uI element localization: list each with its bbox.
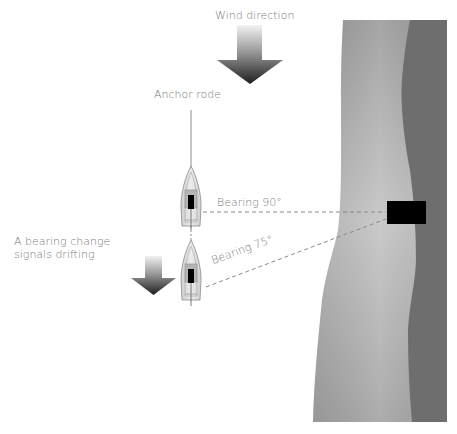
- drift-note-line1: A bearing change: [14, 235, 134, 248]
- diagram-canvas: [0, 0, 457, 434]
- wind-direction-label: Wind direction: [215, 9, 294, 22]
- drift-note-line2: signals drifting: [14, 248, 134, 261]
- shoreline: [313, 20, 447, 422]
- wind-arrow-icon: [217, 25, 283, 84]
- bearing-90-label: Bearing 90°: [217, 196, 282, 209]
- boat-original-icon: [181, 166, 201, 230]
- drift-arrow-icon: [131, 256, 176, 295]
- landmark-rectangle: [387, 201, 426, 224]
- drift-note-label: A bearing change signals drifting: [14, 235, 134, 261]
- anchor-rode-label: Anchor rode: [154, 88, 221, 101]
- boat-drifted-icon: [181, 240, 201, 306]
- anchor-bearing-diagram: Wind direction Anchor rode Bearing 90° B…: [0, 0, 457, 434]
